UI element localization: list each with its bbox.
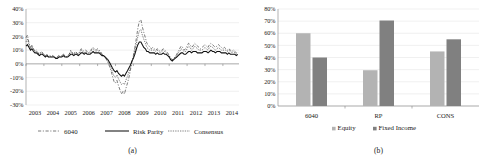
- y-axis-tick-label: 50%: [264, 42, 275, 49]
- bar-cons-fixed-income: [447, 39, 462, 106]
- legend-label-risk-parity: Risk Parity: [133, 128, 164, 135]
- bar-rp-fixed-income: [380, 21, 395, 106]
- y-axis-tick-label: 80%: [264, 5, 275, 12]
- x-axis-tick-label: 2006: [82, 109, 94, 116]
- series-line-6040: [26, 20, 238, 94]
- bar-cons-equity: [430, 51, 445, 106]
- bar-chart-panel-b: 80%70%60%50%40%30%20%10%0%6040RPCONSEqui…: [247, 0, 494, 160]
- x-axis-category-label: 6040: [305, 112, 319, 119]
- line-chart-panel-a: 40%30%20%10%0%-10%-20%-30%20032004200520…: [0, 0, 247, 160]
- x-axis-tick-label: 2005: [65, 109, 77, 116]
- y-axis-tick-label: 10%: [12, 46, 23, 53]
- x-axis-tick-label: 2003: [29, 109, 41, 116]
- y-axis-tick-label: 60%: [264, 29, 275, 36]
- y-axis-tick-label: 20%: [264, 78, 275, 85]
- plot-area-b: 80%70%60%50%40%30%20%10%0%6040RPCONSEqui…: [264, 5, 479, 155]
- x-axis-tick-label: 2013: [208, 109, 220, 116]
- y-axis-tick-label: 30%: [264, 66, 275, 73]
- y-axis-tick-label: 10%: [264, 90, 275, 97]
- legend-label-6040: 6040: [64, 128, 78, 135]
- y-axis-tick-label: 70%: [264, 17, 275, 24]
- y-axis-tick-label: -20%: [10, 87, 23, 94]
- figure-container: 40%30%20%10%0%-10%-20%-30%20032004200520…: [0, 0, 494, 160]
- legend-swatch-equity: [332, 127, 336, 131]
- x-axis-tick-label: 2010: [154, 109, 166, 116]
- plot-area-a: 40%30%20%10%0%-10%-20%-30%20032004200520…: [10, 5, 239, 155]
- y-axis-tick-label: 40%: [264, 54, 275, 61]
- line-chart-svg: 40%30%20%10%0%-10%-20%-30%20032004200520…: [0, 0, 247, 160]
- y-axis-tick-label: -30%: [10, 101, 23, 108]
- x-axis-tick-label: 2014: [226, 109, 238, 116]
- y-axis-tick-label: 0%: [267, 102, 275, 109]
- x-axis-tick-label: 2007: [100, 109, 112, 116]
- x-axis-category-label: CONS: [437, 112, 455, 119]
- y-axis-tick-label: 0%: [15, 60, 23, 67]
- x-axis-tick-label: 2011: [172, 109, 184, 116]
- bar-chart-svg: 80%70%60%50%40%30%20%10%0%6040RPCONSEqui…: [247, 0, 494, 160]
- legend-label-consensus: Consensus: [194, 128, 223, 135]
- legend-label-equity: Equity: [338, 124, 357, 131]
- panel-caption-b: (b): [374, 146, 383, 155]
- y-axis-tick-label: 30%: [12, 19, 23, 26]
- y-axis-tick-label: -10%: [10, 74, 23, 81]
- legend-swatch-fixed-income: [373, 127, 377, 131]
- x-axis-tick-label: 2012: [190, 109, 202, 116]
- panel-caption-a: (a): [128, 146, 137, 155]
- bar-rp-equity: [363, 70, 378, 106]
- bar-6040-fixed-income: [313, 58, 328, 107]
- legend-label-fixed-income: Fixed Income: [379, 124, 417, 131]
- y-axis-tick-label: 40%: [12, 5, 23, 12]
- x-axis-tick-label: 2008: [118, 109, 130, 116]
- x-axis-tick-label: 2004: [47, 109, 59, 116]
- y-axis-tick-label: 20%: [12, 33, 23, 40]
- x-axis-category-label: RP: [374, 112, 382, 119]
- x-axis-tick-label: 2009: [136, 109, 148, 116]
- bar-6040-equity: [296, 33, 311, 106]
- series-line-risk-parity: [26, 42, 238, 76]
